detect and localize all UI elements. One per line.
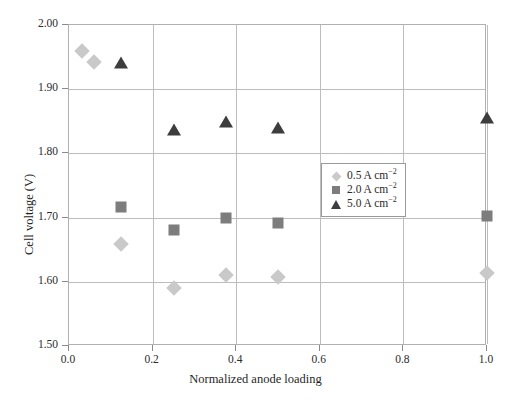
data-point-square <box>220 213 231 224</box>
y-tick-mark <box>62 217 68 218</box>
data-point-triangle <box>480 111 494 123</box>
data-point-diamond <box>218 267 234 283</box>
x-tick-mark <box>68 345 69 351</box>
data-point-triangle <box>114 56 128 68</box>
legend-square-icon <box>329 186 343 194</box>
legend-item: 5.0 A cm−2 <box>329 197 399 211</box>
data-point-triangle <box>219 115 233 127</box>
data-point-square <box>116 202 127 213</box>
x-tick-label: 1.0 <box>466 354 506 366</box>
data-point-diamond <box>113 236 129 252</box>
y-tick-mark <box>62 24 68 25</box>
y-tick-label: 1.50 <box>14 339 58 351</box>
square-icon <box>332 186 340 194</box>
x-tick-label: 0.8 <box>382 354 422 366</box>
data-point-square <box>482 211 493 222</box>
data-point-triangle <box>271 121 285 133</box>
data-point-diamond <box>74 43 90 59</box>
y-tick-mark <box>62 88 68 89</box>
x-tick-mark <box>319 345 320 351</box>
y-tick-mark <box>62 152 68 153</box>
chart-legend: 0.5 A cm−22.0 A cm−25.0 A cm−2 <box>321 163 406 217</box>
legend-exponent: −2 <box>388 195 397 204</box>
legend-exponent: −2 <box>388 181 397 190</box>
data-point-square <box>168 225 179 236</box>
x-tick-label: 0.6 <box>299 354 339 366</box>
x-tick-mark <box>152 345 153 351</box>
x-tick-mark <box>486 345 487 351</box>
plot-area <box>68 24 486 345</box>
x-tick-label: 0.4 <box>215 354 255 366</box>
diamond-icon <box>331 171 341 181</box>
y-axis-title: Cell voltage (V) <box>22 174 37 255</box>
x-axis-title: Normalized anode loading <box>0 372 511 387</box>
y-tick-label: 1.90 <box>14 82 58 94</box>
gridline-vertical <box>487 25 488 344</box>
chart-figure: 1.501.601.701.801.902.00 0.00.20.40.60.8… <box>0 0 511 401</box>
y-tick-label: 1.60 <box>14 275 58 287</box>
x-tick-label: 0.2 <box>132 354 172 366</box>
legend-item-label: 2.0 A cm−2 <box>347 184 397 196</box>
data-point-square <box>273 218 284 229</box>
gridline-vertical <box>236 25 237 344</box>
data-point-diamond <box>479 266 495 282</box>
legend-diamond-icon <box>329 173 343 180</box>
gridline-vertical <box>153 25 154 344</box>
y-tick-label: 1.80 <box>14 146 58 158</box>
x-tick-label: 0.0 <box>48 354 88 366</box>
x-tick-mark <box>402 345 403 351</box>
legend-item-label: 5.0 A cm−2 <box>347 198 397 210</box>
data-point-diamond <box>86 54 102 70</box>
gridline-horizontal <box>69 89 485 90</box>
triangle-icon <box>331 200 341 209</box>
gridline-horizontal <box>69 153 485 154</box>
y-tick-mark <box>62 281 68 282</box>
legend-exponent: −2 <box>388 167 397 176</box>
data-point-triangle <box>167 124 181 136</box>
legend-triangle-icon <box>329 200 343 209</box>
legend-item-label: 0.5 A cm−2 <box>347 170 397 182</box>
x-tick-mark <box>235 345 236 351</box>
y-tick-label: 2.00 <box>14 18 58 30</box>
